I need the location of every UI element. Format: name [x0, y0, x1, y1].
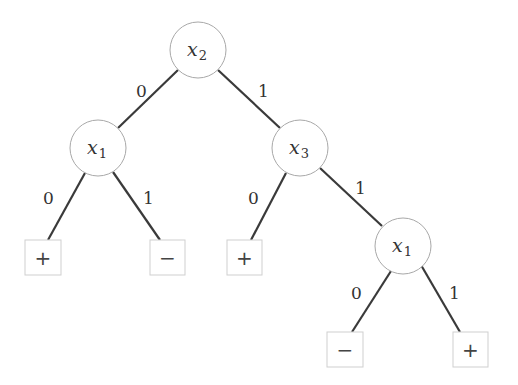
- node-right: x3: [272, 120, 328, 176]
- edge-label: 0: [351, 283, 362, 303]
- leaf-1: +: [25, 240, 61, 275]
- node-root: x2: [170, 22, 226, 78]
- edge-root-left: [118, 70, 178, 128]
- node-right-right: x1: [375, 218, 431, 274]
- leaf-label: −: [159, 246, 176, 270]
- leaf-label: −: [337, 338, 354, 362]
- leaf-2: −: [150, 240, 185, 275]
- leaf-label: +: [462, 338, 479, 362]
- leaf-5: +: [453, 332, 488, 367]
- edge-label: 0: [43, 188, 54, 208]
- decision-tree-diagram: 0 1 0 1 0 1 0 1 x2 x1 x3 x1 + − + −: [0, 0, 518, 385]
- leaf-label: +: [236, 246, 253, 270]
- edge-label: 0: [136, 81, 147, 101]
- leaf-label: +: [35, 246, 52, 270]
- edge-label: 1: [449, 283, 460, 303]
- edge-label: 0: [248, 188, 259, 208]
- edge-root-right: [218, 70, 280, 128]
- leaf-4: −: [327, 332, 363, 367]
- edge-label: 1: [143, 188, 154, 208]
- edge-right-rr: [320, 168, 382, 226]
- node-left: x1: [70, 120, 126, 176]
- leaf-3: +: [227, 240, 262, 275]
- edge-label: 1: [258, 81, 269, 101]
- edge-label: 1: [355, 178, 366, 198]
